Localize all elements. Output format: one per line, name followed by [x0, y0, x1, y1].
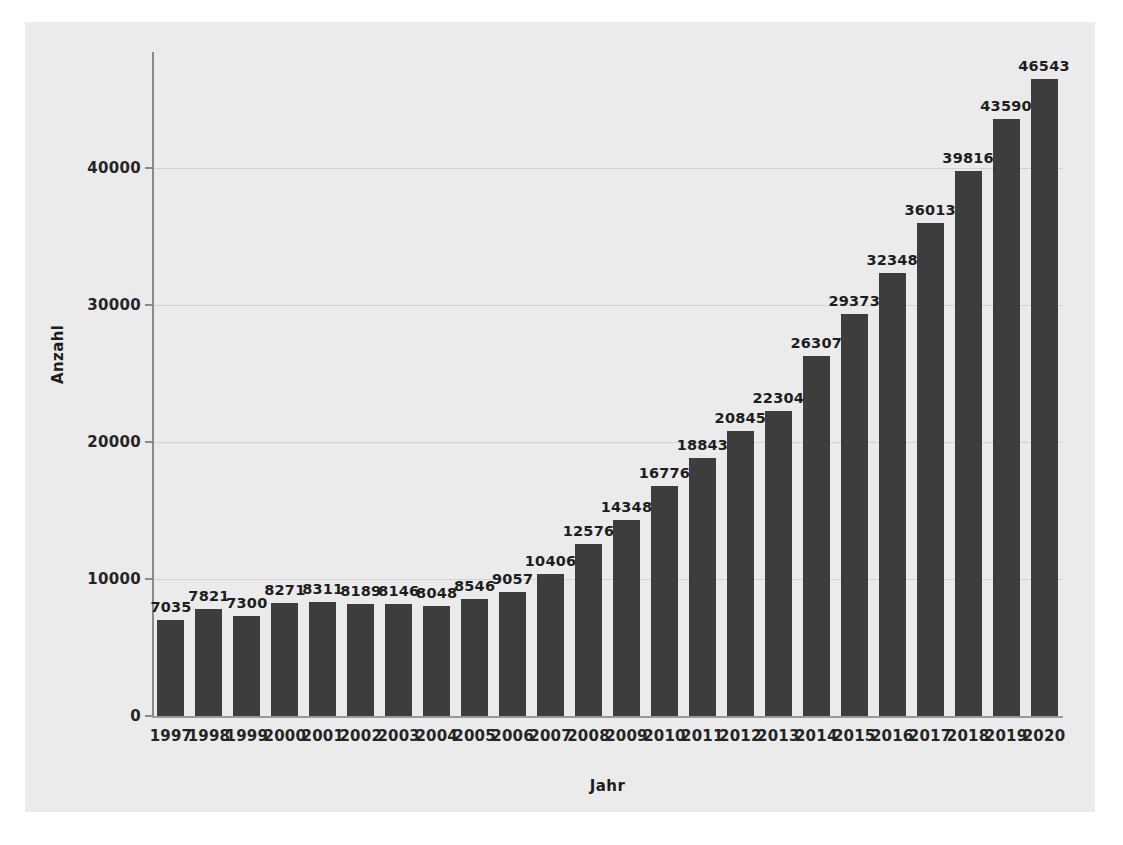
bar: 7035: [157, 620, 184, 716]
bar: 7300: [233, 616, 260, 716]
y-tick-label: 40000: [87, 159, 141, 177]
bar-value-label: 26307: [791, 335, 842, 351]
x-tick-label: 2004: [415, 727, 458, 745]
bar: 8546: [461, 599, 488, 716]
bar-value-label: 8271: [264, 582, 305, 598]
bar: 22304: [765, 411, 792, 716]
bar-group: 73001999: [228, 52, 266, 716]
bar: 14348: [613, 520, 640, 716]
x-tick-label: 2010: [643, 727, 686, 745]
bar: 36013: [917, 223, 944, 716]
y-tick-label: 20000: [87, 433, 141, 451]
bar-value-label: 18843: [677, 437, 728, 453]
y-tick-mark: [145, 441, 152, 443]
y-axis-title: Anzahl: [49, 325, 67, 384]
x-tick-label: 2018: [947, 727, 990, 745]
bar-value-label: 8546: [454, 578, 495, 594]
x-tick-label: 2009: [605, 727, 648, 745]
bar-group: 90572006: [494, 52, 532, 716]
x-axis-title: Jahr: [152, 777, 1063, 795]
bar-group: 70351997: [152, 52, 190, 716]
bar-group: 125762008: [570, 52, 608, 716]
x-tick-label: 2003: [377, 727, 420, 745]
bar-value-label: 46543: [1018, 58, 1069, 74]
bar-value-label: 12576: [563, 523, 614, 539]
bar: 18843: [689, 458, 716, 716]
bar-group: 85462005: [456, 52, 494, 716]
y-tick-label: 30000: [87, 296, 141, 314]
bar-group: 435902019: [987, 52, 1025, 716]
bar-group: 293732015: [835, 52, 873, 716]
bar: 43590: [993, 119, 1020, 716]
bar-group: 188432011: [683, 52, 721, 716]
bar: 10406: [537, 574, 564, 716]
bar: 9057: [499, 592, 526, 716]
bar: 16776: [651, 486, 678, 716]
bar: 29373: [841, 314, 868, 716]
bar: 20845: [727, 431, 754, 716]
x-tick-label: 2020: [1023, 727, 1066, 745]
x-tick-label: 2013: [757, 727, 800, 745]
bar-group: 78211998: [190, 52, 228, 716]
bar: 8048: [423, 606, 450, 716]
x-tick-label: 2011: [681, 727, 724, 745]
x-tick-label: 2005: [453, 727, 496, 745]
bar-value-label: 7035: [150, 599, 191, 615]
x-tick-label: 2014: [795, 727, 838, 745]
bar-value-label: 8146: [378, 583, 419, 599]
bar: 26307: [803, 356, 830, 716]
x-tick-label: 1998: [188, 727, 231, 745]
x-tick-label: 2017: [909, 727, 952, 745]
bar: 8146: [385, 604, 412, 716]
y-tick-mark: [145, 715, 152, 717]
bar-group: 143482009: [608, 52, 646, 716]
x-tick-label: 1997: [150, 727, 193, 745]
x-tick-label: 2015: [833, 727, 876, 745]
bar-value-label: 8189: [340, 583, 381, 599]
x-tick-label: 2016: [871, 727, 914, 745]
bar-group: 323482016: [873, 52, 911, 716]
bar-group: 223042013: [759, 52, 797, 716]
axis-baseline: [152, 716, 1063, 718]
chart-figure: 010000200003000040000 703519977821199873…: [25, 22, 1095, 812]
x-tick-label: 2012: [719, 727, 762, 745]
bar-value-label: 7300: [226, 595, 267, 611]
bar: 8311: [309, 602, 336, 716]
x-tick-label: 2000: [264, 727, 307, 745]
bar-value-label: 8048: [416, 585, 457, 601]
x-tick-label: 2002: [339, 727, 382, 745]
bar-group: 80482004: [418, 52, 456, 716]
x-tick-label: 2008: [567, 727, 610, 745]
plot-area: 010000200003000040000 703519977821199873…: [152, 52, 1063, 716]
x-tick-label: 1999: [226, 727, 269, 745]
bar-value-label: 7821: [188, 588, 229, 604]
bar-value-label: 9057: [492, 571, 533, 587]
x-tick-label: 2019: [985, 727, 1028, 745]
bar-group: 465432020: [1025, 52, 1063, 716]
y-tick-mark: [145, 167, 152, 169]
bar: 46543: [1031, 79, 1058, 716]
bar-value-label: 36013: [904, 202, 955, 218]
bar: 8271: [271, 603, 298, 716]
y-tick-label: 0: [130, 707, 141, 725]
bar: 39816: [955, 171, 982, 716]
x-tick-label: 2006: [491, 727, 534, 745]
bar-group: 263072014: [797, 52, 835, 716]
bar-group: 167762010: [645, 52, 683, 716]
bar-group: 81462003: [380, 52, 418, 716]
bar: 32348: [879, 273, 906, 716]
bar-group: 82712000: [266, 52, 304, 716]
bar: 12576: [575, 544, 602, 716]
bar-group: 104062007: [532, 52, 570, 716]
x-tick-label: 2001: [302, 727, 345, 745]
y-tick-mark: [145, 578, 152, 580]
bar: 8189: [347, 604, 374, 716]
bar: 7821: [195, 609, 222, 716]
bar-group: 398162018: [949, 52, 987, 716]
y-tick-mark: [145, 304, 152, 306]
y-tick-label: 10000: [87, 570, 141, 588]
bar-group: 208452012: [721, 52, 759, 716]
x-tick-label: 2007: [529, 727, 572, 745]
bar-group: 81892002: [342, 52, 380, 716]
bar-value-label: 8311: [302, 581, 343, 597]
